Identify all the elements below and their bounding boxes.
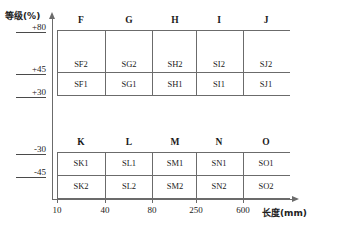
cell-SF2: SF2 bbox=[57, 59, 105, 70]
column-header-L: L bbox=[105, 137, 153, 148]
y-axis-title: 等级(%) bbox=[5, 9, 40, 22]
x-tick-mark-10 bbox=[57, 199, 58, 203]
column-header-J: J bbox=[242, 15, 290, 26]
cell-SK1: SK1 bbox=[57, 158, 105, 169]
column-header-G: G bbox=[105, 15, 153, 26]
cell-SL2: SL2 bbox=[105, 181, 153, 192]
classification-chart: 等级(%) 长度(mm) +80 +45 +30 -30 -45 10 40 8… bbox=[0, 0, 337, 234]
column-header-K: K bbox=[57, 137, 105, 148]
y-tick-label-80: +80 bbox=[16, 22, 46, 33]
x-axis-title: 长度(mm) bbox=[262, 206, 307, 219]
column-header-F: F bbox=[57, 15, 105, 26]
cell-SG2: SG2 bbox=[105, 59, 153, 70]
grid-line-top-80 bbox=[57, 30, 290, 31]
x-tick-mark-250 bbox=[196, 199, 197, 203]
y-axis-line bbox=[52, 18, 53, 200]
cell-SG1: SG1 bbox=[105, 79, 153, 90]
y-tick-label-neg30: -30 bbox=[16, 144, 46, 155]
grid-line-45 bbox=[57, 72, 290, 73]
x-tick-label-80: 80 bbox=[135, 205, 169, 216]
x-tick-mark-80 bbox=[152, 199, 153, 203]
y-axis-arrow-icon bbox=[49, 12, 55, 19]
x-tick-label-600: 600 bbox=[226, 205, 260, 216]
y-tick-label-30: +30 bbox=[16, 87, 46, 98]
x-tick-label-10: 10 bbox=[40, 205, 74, 216]
grid-line-neg30 bbox=[57, 152, 290, 153]
y-tick-label-45: +45 bbox=[16, 64, 46, 75]
cell-SL1: SL1 bbox=[105, 158, 153, 169]
cell-SF1: SF1 bbox=[57, 79, 105, 90]
x-axis-arrow-icon bbox=[292, 196, 299, 202]
grid-line-30 bbox=[57, 95, 290, 96]
cell-SN1: SN1 bbox=[195, 158, 243, 169]
cell-SI2: SI2 bbox=[195, 59, 243, 70]
cell-SJ1: SJ1 bbox=[242, 79, 290, 90]
column-header-O: O bbox=[242, 137, 290, 148]
cell-SN2: SN2 bbox=[195, 181, 243, 192]
x-tick-mark-600 bbox=[243, 199, 244, 203]
column-header-M: M bbox=[151, 137, 199, 148]
y-tick-label-neg45: -45 bbox=[16, 167, 46, 178]
cell-SO1: SO1 bbox=[242, 158, 290, 169]
cell-SK2: SK2 bbox=[57, 181, 105, 192]
column-header-H: H bbox=[151, 15, 199, 26]
x-tick-mark-40 bbox=[105, 199, 106, 203]
cell-SM2: SM2 bbox=[151, 181, 199, 192]
grid-line-neg45 bbox=[57, 175, 290, 176]
x-tick-label-40: 40 bbox=[88, 205, 122, 216]
grid-line-bottom bbox=[57, 198, 290, 199]
cell-SM1: SM1 bbox=[151, 158, 199, 169]
x-axis-line bbox=[52, 199, 296, 200]
cell-SO2: SO2 bbox=[242, 181, 290, 192]
cell-SH2: SH2 bbox=[151, 59, 199, 70]
cell-SJ2: SJ2 bbox=[242, 59, 290, 70]
column-header-N: N bbox=[195, 137, 243, 148]
column-header-I: I bbox=[195, 15, 243, 26]
x-tick-label-250: 250 bbox=[179, 205, 213, 216]
cell-SH1: SH1 bbox=[151, 79, 199, 90]
cell-SI1: SI1 bbox=[195, 79, 243, 90]
